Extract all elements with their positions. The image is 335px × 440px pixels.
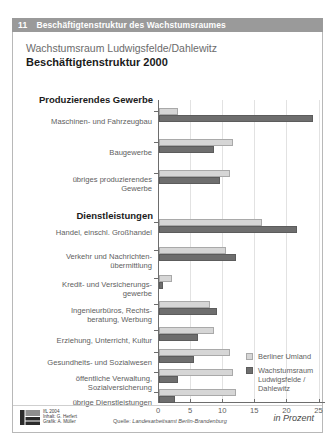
y-axis-tick (154, 372, 158, 373)
category-label-line: Sozialversicherung (88, 383, 152, 392)
y-axis-tick (154, 278, 158, 279)
y-axis-tick (154, 352, 158, 353)
credit-graphic: Grafik: A. Müller (43, 419, 77, 424)
bar-berliner-umland (159, 349, 230, 356)
category-label: Gesundheits- und Sozialwesen (13, 358, 152, 367)
bar-berliner-umland (159, 369, 233, 376)
legend-label-line-1: Wachstumsraum (258, 366, 313, 375)
bar-berliner-umland (159, 108, 178, 115)
chart-legend: Berliner Umland Wachstumsraum Ludwigsfel… (246, 352, 318, 398)
ifl-logo-icon (20, 410, 40, 425)
y-axis-tick (154, 111, 158, 112)
bar-wachstumsraum (159, 376, 178, 383)
x-axis-tick (254, 399, 255, 402)
category-label-line: Kredit- und Versicherungs- (62, 280, 152, 289)
category-label: Erziehung, Unterricht, Kultur (13, 336, 152, 345)
category-label: übriges produzierendesGewerbe (13, 175, 152, 193)
credit-block: IfL 2004 Inhalt: G. Herfert Grafik: A. M… (43, 409, 77, 425)
category-label-line: gewerbe (123, 289, 152, 298)
category-label-line: Maschinen- und Fahrzeugbau (51, 117, 152, 126)
bar-wachstumsraum (159, 146, 214, 153)
figure-card: 11 Beschäftigtenstruktur des Wachstumsra… (12, 18, 323, 433)
bar-berliner-umland (159, 139, 233, 146)
category-label-line: Handel, einschl. Großhandel (56, 228, 152, 237)
legend-item-berliner-umland: Berliner Umland (246, 352, 318, 361)
category-label: Handel, einschl. Großhandel (13, 228, 152, 237)
bar-wachstumsraum (159, 334, 198, 341)
bar-wachstumsraum (159, 308, 217, 315)
legend-swatch-light-icon (246, 353, 253, 360)
legend-label-berliner-umland: Berliner Umland (258, 352, 318, 361)
bar-berliner-umland (159, 219, 262, 226)
bar-wachstumsraum (159, 226, 297, 233)
legend-item-wachstumsraum: Wachstumsraum Ludwigsfelde / Dahlewitz (246, 366, 318, 393)
figure-header-title: Beschäftigtenstruktur des Wachstumsraume… (36, 20, 225, 30)
category-label-line: übermittlung (110, 261, 152, 270)
category-label: Ingenieurbüros, Rechts-beratung, Werbung (13, 306, 152, 324)
legend-swatch-dark-icon (246, 367, 253, 374)
y-axis-tick (154, 304, 158, 305)
category-label: Kredit- und Versicherungs-gewerbe (13, 280, 152, 298)
category-label-line: Baugewerbe (109, 148, 152, 157)
y-axis-tick (154, 222, 158, 223)
source-label: Quelle: (113, 418, 131, 424)
figure-footer: IfL 2004 Inhalt: G. Herfert Grafik: A. M… (13, 405, 322, 432)
figure-header-band: 11 Beschäftigtenstruktur des Wachstumsra… (12, 18, 323, 32)
source-text: Landesarbeitsamt Berlin-Brandenburg (132, 418, 227, 424)
bar-berliner-umland (159, 389, 236, 396)
chart-group-heading: Dienstleistungen (13, 210, 153, 221)
category-label-line: beratung, Werbung (87, 315, 152, 324)
bar-berliner-umland (159, 247, 226, 254)
bar-wachstumsraum (159, 177, 220, 184)
category-label-line: Gewerbe (121, 184, 152, 193)
bar-wachstumsraum (159, 282, 163, 289)
y-axis-tick (154, 392, 158, 393)
figure-body: Wachstumsraum Ludwigsfelde/Dahlewitz Bes… (12, 32, 323, 433)
category-label-line: Ingenieurbüros, Rechts- (71, 306, 152, 315)
category-label-line: öffentliche Verwaltung, (76, 374, 152, 383)
bar-berliner-umland (159, 327, 214, 334)
y-axis-tick (154, 173, 158, 174)
category-label-line: Gesundheits- und Sozialwesen (47, 358, 152, 367)
category-label-line: Verkehr und Nachrichten- (66, 252, 152, 261)
x-axis-tick (286, 399, 287, 402)
legend-label-wachstumsraum: Wachstumsraum Ludwigsfelde / Dahlewitz (258, 366, 318, 393)
bar-wachstumsraum (159, 254, 236, 261)
bar-wachstumsraum (159, 356, 194, 363)
category-label: öffentliche Verwaltung,Sozialversicherun… (13, 374, 152, 392)
bar-berliner-umland (159, 275, 172, 282)
y-axis-tick (154, 142, 158, 143)
category-label: Verkehr und Nachrichten-übermittlung (13, 252, 152, 270)
y-axis-tick (154, 330, 158, 331)
source-note: Quelle: Landesarbeitsamt Berlin-Brandenb… (113, 418, 227, 424)
figure-number: 11 (18, 20, 27, 30)
legend-label-line-2: Ludwigsfelde / (258, 375, 305, 384)
chart-group-heading: Produzierendes Gewerbe (13, 94, 153, 105)
bar-wachstumsraum (159, 115, 313, 122)
category-label: Baugewerbe (13, 148, 152, 157)
bar-berliner-umland (159, 301, 210, 308)
bar-wachstumsraum (159, 396, 175, 403)
y-axis-tick (154, 250, 158, 251)
category-label-line: Erziehung, Unterricht, Kultur (57, 336, 152, 345)
legend-label-line-3: Dahlewitz (258, 384, 290, 393)
x-axis-line (158, 402, 325, 403)
x-axis-tick (222, 399, 223, 402)
x-axis-tick (190, 399, 191, 402)
category-label-line: übriges produzierendes (73, 175, 152, 184)
category-label: Maschinen- und Fahrzeugbau (13, 117, 152, 126)
bar-berliner-umland (159, 170, 230, 177)
gridline (319, 100, 320, 402)
x-axis-tick (319, 399, 320, 402)
